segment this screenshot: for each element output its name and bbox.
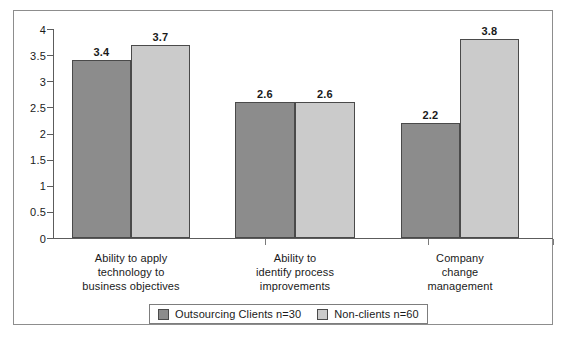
legend-swatch	[317, 309, 328, 320]
bar: 3.7	[131, 45, 190, 238]
chart-frame: 00.511.522.533.54 3.43.72.62.62.23.8 Abi…	[13, 10, 553, 325]
x-axis-tick	[265, 239, 266, 245]
plot-area: 00.511.522.533.54 3.43.72.62.62.23.8 Abi…	[53, 29, 554, 238]
x-axis-line	[53, 238, 553, 239]
y-axis-tick-mark	[47, 55, 53, 56]
legend-swatch	[158, 309, 169, 320]
y-axis-tick: 3	[53, 81, 54, 82]
y-axis-tick-mark	[47, 29, 53, 30]
y-axis-tick-label: 0.5	[30, 206, 46, 218]
y-axis-tick: 1	[53, 186, 54, 187]
y-axis-tick-label: 2	[40, 128, 46, 140]
bar: 3.4	[72, 60, 131, 238]
y-axis-tick: 4	[53, 29, 54, 30]
bar-value-label: 3.8	[482, 25, 498, 37]
y-axis-tick: 1.5	[53, 160, 54, 161]
bar: 2.6	[295, 102, 355, 238]
y-axis-tick-mark	[47, 134, 53, 135]
y-axis-tick-mark	[47, 107, 53, 108]
legend-item: Non-clients n=60	[317, 308, 418, 320]
category-label: Ability to apply technology to business …	[51, 251, 211, 293]
y-axis-tick-mark	[47, 186, 53, 187]
y-axis-tick-label: 0	[40, 233, 46, 245]
y-axis-tick-label: 1	[40, 180, 46, 192]
bar-value-label: 3.4	[94, 46, 110, 58]
bar-value-label: 2.6	[257, 88, 273, 100]
y-axis-tick: 2	[53, 134, 54, 135]
legend-item: Outsourcing Clients n=30	[158, 308, 301, 320]
y-axis-tick-mark	[47, 238, 53, 239]
x-axis-tick	[553, 239, 554, 245]
bar-value-label: 2.6	[317, 88, 333, 100]
y-axis-tick-label: 4	[40, 24, 46, 36]
y-axis-tick: 0	[53, 238, 54, 239]
y-axis-tick: 3.5	[53, 55, 54, 56]
y-axis-tick-label: 1.5	[30, 154, 46, 166]
y-axis-tick-mark	[47, 160, 53, 161]
y-axis-tick: 0.5	[53, 212, 54, 213]
legend-label: Non-clients n=60	[334, 308, 418, 320]
y-axis-tick-mark	[47, 81, 53, 82]
y-axis-tick-label: 3	[40, 76, 46, 88]
y-axis-tick: 2.5	[53, 107, 54, 108]
bar: 3.8	[460, 39, 519, 238]
legend-label: Outsourcing Clients n=30	[175, 308, 301, 320]
y-axis-tick-mark	[47, 212, 53, 213]
bar: 2.6	[235, 102, 295, 238]
bar: 2.2	[401, 123, 460, 238]
chart-legend: Outsourcing Clients n=30Non-clients n=60	[149, 304, 428, 324]
bar-value-label: 3.7	[153, 31, 169, 43]
y-axis-tick-label: 2.5	[30, 102, 46, 114]
category-label: Ability to identify process improvements	[215, 251, 375, 293]
y-axis-tick-label: 3.5	[30, 50, 46, 62]
x-axis-tick	[428, 239, 429, 245]
category-label: Company change management	[380, 251, 540, 293]
bar-value-label: 2.2	[423, 109, 439, 121]
